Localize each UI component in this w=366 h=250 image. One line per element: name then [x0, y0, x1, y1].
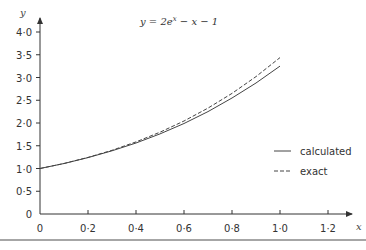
x-tick-label: 0·4: [128, 223, 144, 234]
y-axis-title: y: [19, 7, 26, 18]
y-tick-label: 0·5: [16, 186, 32, 197]
legend-exact-label: exact: [300, 166, 328, 177]
y-tick-label: 3·0: [16, 73, 32, 84]
x-tick-label: 1·2: [320, 223, 336, 234]
chart-title: y = 2ex − x − 1: [139, 15, 218, 27]
y-tick-label: 1·0: [16, 164, 32, 175]
x-tick-label: 0·6: [176, 223, 192, 234]
series-exact: [40, 58, 280, 169]
y-tick-label: 2·5: [16, 95, 32, 106]
axis-ticks: 00·20·40·60·81·01·200·51·01·52·02·53·03·…: [16, 27, 336, 234]
x-tick-label: 0·8: [224, 223, 240, 234]
y-tick-label: 4·0: [16, 27, 32, 38]
x-tick-label: 1·0: [272, 223, 288, 234]
series-calculated: [40, 66, 280, 168]
y-tick-label: 2·0: [16, 118, 32, 129]
y-tick-label: 3·5: [16, 50, 32, 61]
x-axis-title: x: [356, 221, 362, 232]
chart: 00·20·40·60·81·01·200·51·01·52·02·53·03·…: [0, 0, 366, 250]
y-tick-label: 1·5: [16, 141, 32, 152]
curves: [40, 58, 280, 169]
x-tick-label: 0: [37, 223, 43, 234]
y-tick-label: 0: [26, 209, 32, 220]
x-tick-label: 0·2: [80, 223, 96, 234]
legend-calculated-label: calculated: [300, 146, 352, 157]
legend: calculated exact: [274, 146, 352, 177]
